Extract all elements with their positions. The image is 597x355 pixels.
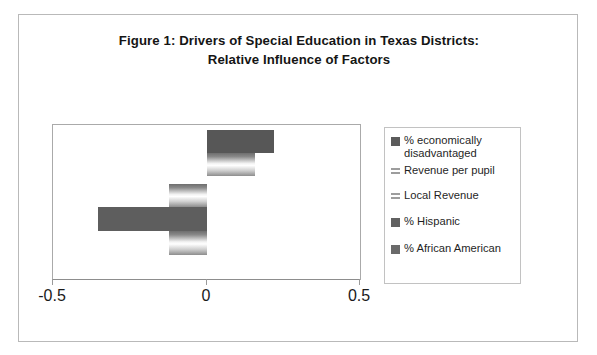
legend-label: Local Revenue [404, 189, 479, 202]
bar-african-american [169, 231, 207, 255]
bar-economically-disadvantaged [207, 130, 274, 153]
legend-swatch-square-icon [391, 218, 400, 227]
legend-item-african-american: % African American [391, 242, 515, 255]
legend-item-revenue-per-pupil: Revenue per pupil [391, 164, 515, 177]
x-tick-min [52, 279, 53, 285]
figure-panel: Figure 1: Drivers of Special Education i… [18, 14, 578, 342]
x-tick-zero [206, 279, 207, 285]
legend-label: % Hispanic [404, 215, 460, 228]
legend-item-hispanic: % Hispanic [391, 215, 515, 228]
legend-swatch-square-icon [391, 245, 400, 254]
figure-title-line-2: Relative Influence of Factors [19, 50, 579, 69]
bar-revenue-per-pupil [207, 153, 255, 176]
x-tick-label-zero: 0 [176, 287, 236, 305]
legend-label: Revenue per pupil [404, 164, 495, 177]
legend-swatch-square-icon [391, 137, 400, 146]
plot-area [52, 124, 361, 280]
figure-title: Figure 1: Drivers of Special Education i… [19, 31, 579, 69]
bar-local-revenue [169, 184, 207, 207]
legend-item-local-revenue: Local Revenue [391, 189, 515, 202]
legend-item-economically-disadvantaged: % economically disadvantaged [391, 134, 515, 159]
x-tick-max [359, 279, 360, 285]
legend-label: % economically disadvantaged [404, 134, 515, 159]
bar-hispanic [98, 207, 207, 231]
legend: % economically disadvantaged Revenue per… [384, 127, 521, 284]
legend-swatch-lines-icon [391, 192, 400, 201]
legend-swatch-lines-icon [391, 167, 400, 176]
x-tick-label-max: 0.5 [329, 287, 389, 305]
legend-label: % African American [404, 242, 501, 255]
x-tick-label-min: -0.5 [22, 287, 82, 305]
figure-title-line-1: Figure 1: Drivers of Special Education i… [119, 33, 479, 48]
